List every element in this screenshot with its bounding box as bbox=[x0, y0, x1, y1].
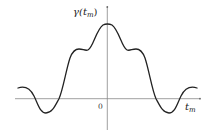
y-axis-label: γ(tm) bbox=[73, 6, 98, 19]
y-axis-arrow-icon bbox=[106, 6, 108, 8]
x-axis-label: tm bbox=[185, 101, 196, 114]
plot-canvas: γ(tm) 0 tm bbox=[0, 0, 211, 139]
x-axis-arrow-icon bbox=[199, 98, 201, 100]
origin-label: 0 bbox=[98, 102, 103, 111]
